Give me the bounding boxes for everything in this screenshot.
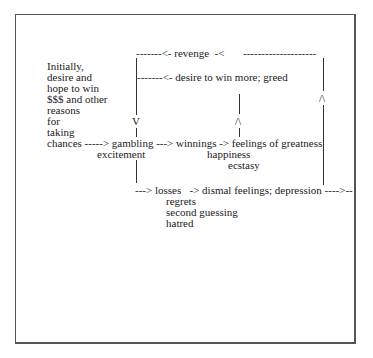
winnings-feeling: ecstasy [228,160,260,171]
vertical-connector-right [323,58,324,91]
up-arrow-icon: /\ [235,116,241,127]
gambling-feeling: excitement [97,149,145,160]
vertical-connector-left [136,58,137,115]
up-arrow-icon: /\ [319,93,325,104]
main-flow-line: chances -----> gambling ---> winnings ->… [47,138,322,149]
vertical-connector-middle [239,94,240,114]
vertical-connector-right [323,105,324,185]
revenge-line: -------<- revenge -< [136,48,224,59]
revenge-line-right: -------------------- [243,48,316,59]
vertical-connector-middle [239,128,240,137]
greed-line: -------<- desire to win more; greed [137,72,288,83]
vertical-connector-losses [136,160,137,183]
losses-feeling: hatred [166,218,193,229]
vertical-connector-left [136,128,137,137]
down-arrow-icon: V [132,116,140,127]
